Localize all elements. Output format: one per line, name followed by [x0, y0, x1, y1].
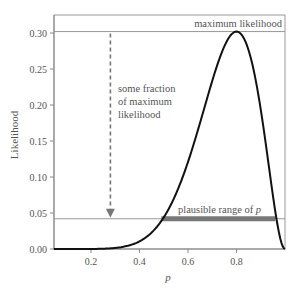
- x-tick-label: 0.6: [182, 256, 195, 267]
- x-tick-label: 0.8: [230, 256, 243, 267]
- fraction-label-line3: likelihood: [118, 109, 161, 120]
- y-axis-label: Likelihood: [8, 110, 20, 159]
- y-ticks: 0.000.050.100.150.200.250.30: [30, 28, 55, 255]
- fraction-label-line1: some fraction: [118, 83, 176, 94]
- y-tick-label: 0.20: [30, 100, 48, 111]
- x-axis-label: p: [164, 271, 171, 283]
- max-likelihood-label: maximum likelihood: [194, 18, 283, 29]
- x-tick-label: 0.4: [133, 256, 146, 267]
- y-tick-label: 0.15: [30, 136, 48, 147]
- y-tick-label: 0.30: [30, 28, 48, 39]
- y-tick-label: 0.10: [30, 172, 48, 183]
- likelihood-chart: 0.000.050.100.150.200.250.30 0.20.40.60.…: [0, 0, 302, 299]
- y-tick-label: 0.00: [30, 244, 48, 255]
- arrow-down-icon: [106, 209, 115, 218]
- y-tick-label: 0.25: [30, 64, 48, 75]
- fraction-label-line2: of maximum: [118, 96, 172, 107]
- plausible-range-label: plausible range of p: [178, 204, 261, 215]
- x-tick-label: 0.2: [85, 256, 98, 267]
- x-ticks: 0.20.40.60.8: [85, 249, 243, 267]
- y-tick-label: 0.05: [30, 208, 48, 219]
